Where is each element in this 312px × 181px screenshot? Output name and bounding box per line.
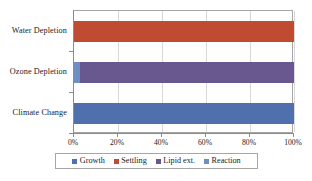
bar-segment[interactable] xyxy=(80,62,295,83)
y-axis-line xyxy=(73,10,74,133)
y-axis-tick xyxy=(69,51,73,52)
x-axis-label: 0% xyxy=(53,138,93,147)
y-axis-tick xyxy=(69,92,73,93)
x-axis-label: 80% xyxy=(229,138,269,147)
x-axis-line xyxy=(73,133,293,134)
legend-label: Reaction xyxy=(212,156,241,166)
legend-label: Settling xyxy=(121,156,146,166)
x-axis-tick xyxy=(161,133,162,137)
legend-swatch-icon xyxy=(156,159,161,164)
x-axis-tick xyxy=(205,133,206,137)
legend-label: Growth xyxy=(80,156,105,166)
x-axis-tick xyxy=(117,133,118,137)
bar-segment[interactable] xyxy=(74,103,294,124)
category-label: Water Depletion xyxy=(0,26,67,36)
legend-item[interactable]: Growth xyxy=(72,156,105,166)
x-axis-tick xyxy=(293,133,294,137)
category-label: Climate Change xyxy=(0,108,67,118)
gridline xyxy=(294,11,295,132)
x-axis-label: 20% xyxy=(97,138,137,147)
legend-item[interactable]: Settling xyxy=(114,156,147,166)
bar-row[interactable] xyxy=(74,103,294,124)
y-axis-tick xyxy=(69,133,73,134)
legend-item[interactable]: Reaction xyxy=(204,156,241,166)
plot-area xyxy=(73,10,293,133)
chart-legend: GrowthSettlingLipid ext.Reaction xyxy=(55,153,258,169)
legend-swatch-icon xyxy=(72,159,77,164)
bar-segment[interactable] xyxy=(74,21,294,42)
legend-swatch-icon xyxy=(204,159,209,164)
x-axis-label: 100% xyxy=(273,138,312,147)
plot-inner xyxy=(74,11,292,132)
x-axis-label: 40% xyxy=(141,138,181,147)
x-axis-tick xyxy=(249,133,250,137)
x-axis-tick xyxy=(73,133,74,137)
legend-label: Lipid ext. xyxy=(163,156,195,166)
bar-row[interactable] xyxy=(74,21,294,42)
bar-row[interactable] xyxy=(74,62,294,83)
stacked-bar-chart: GrowthSettlingLipid ext.Reaction 0%20%40… xyxy=(0,0,312,181)
category-label: Ozone Depletion xyxy=(0,67,67,77)
x-axis-label: 60% xyxy=(185,138,225,147)
legend-item[interactable]: Lipid ext. xyxy=(156,156,195,166)
legend-swatch-icon xyxy=(114,159,119,164)
